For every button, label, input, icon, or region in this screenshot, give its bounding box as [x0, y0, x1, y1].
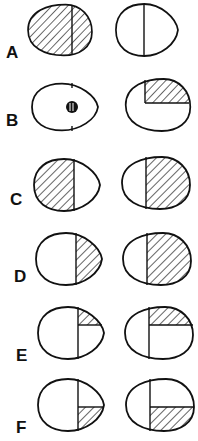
egg-a-right: [116, 4, 178, 56]
row-a: A: [6, 4, 178, 62]
egg-d-left: [36, 231, 106, 287]
egg-f-left: [38, 379, 108, 435]
row-c: C: [10, 155, 192, 213]
egg-e-left: [38, 305, 108, 359]
label-d: D: [14, 267, 26, 286]
row-b: B: [6, 79, 192, 131]
row-f: F: [16, 379, 196, 437]
label-e: E: [16, 346, 27, 365]
egg-b-right: [126, 79, 193, 131]
egg-e-right: [125, 305, 195, 359]
label-f: F: [16, 418, 26, 437]
label-b: B: [6, 111, 18, 130]
row-e: E: [16, 305, 195, 365]
egg-c-left: [32, 157, 100, 213]
egg-c-right: [122, 155, 192, 211]
egg-diagram: A B C: [0, 0, 198, 441]
egg-b-left: [32, 83, 98, 131]
row-d: D: [14, 231, 193, 287]
label-a: A: [6, 43, 18, 62]
egg-d-right: [123, 231, 193, 287]
label-c: C: [10, 190, 22, 209]
egg-a-left: [28, 5, 92, 56]
egg-f-right: [126, 379, 196, 435]
nucleus-dot: [66, 101, 78, 113]
